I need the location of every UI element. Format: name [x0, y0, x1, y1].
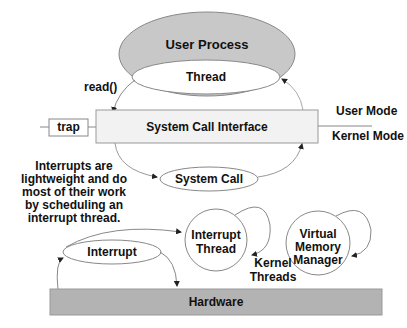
kernel-threads-label: Kernel Threads [248, 256, 298, 284]
return-arrow [282, 79, 303, 110]
interrupt-note: Interrupts are lightweight and do most o… [14, 160, 134, 225]
kernel-mode-label: Kernel Mode [332, 129, 404, 143]
trap-label: trap [49, 120, 88, 134]
thread-label: Thread [176, 70, 236, 84]
interrupt-label: Interrupt [63, 245, 161, 259]
user-process-label: User Process [157, 38, 257, 52]
hardware-label: Hardware [50, 295, 382, 309]
sci-label: System Call Interface [96, 120, 318, 134]
interrupt-thread-label: Interrupt Thread [190, 228, 242, 256]
user-mode-label: User Mode [336, 104, 397, 118]
system-call-label: System Call [160, 172, 258, 186]
read-label: read() [84, 80, 117, 94]
